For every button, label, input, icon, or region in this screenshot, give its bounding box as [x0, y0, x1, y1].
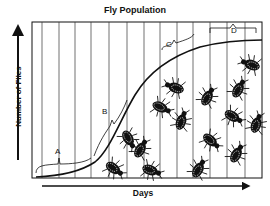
segment-label-b: B	[102, 107, 107, 116]
plot-frame	[32, 22, 262, 178]
chart-canvas: A B C D	[0, 0, 270, 206]
segment-label-d: D	[231, 26, 237, 35]
segment-label-c: C	[166, 40, 172, 49]
segment-label-a: A	[55, 147, 61, 156]
